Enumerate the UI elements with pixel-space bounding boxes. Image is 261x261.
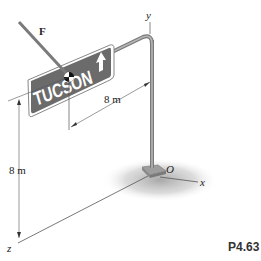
figure: TUCSON F y 8 m 8 m O x z P4.63	[0, 0, 261, 261]
problem-number: P4.63	[228, 240, 259, 254]
z-axis-line	[18, 176, 148, 243]
y-axis-label: y	[146, 10, 151, 21]
dim-vertical-label: 8 m	[9, 165, 26, 176]
dim-horizontal-label: 8 m	[104, 94, 121, 105]
origin-label: O	[166, 164, 174, 175]
force-label: F	[39, 26, 46, 37]
diagram-svg: TUCSON	[0, 0, 261, 261]
x-axis-label: x	[200, 177, 205, 188]
z-axis-label: z	[7, 243, 11, 254]
